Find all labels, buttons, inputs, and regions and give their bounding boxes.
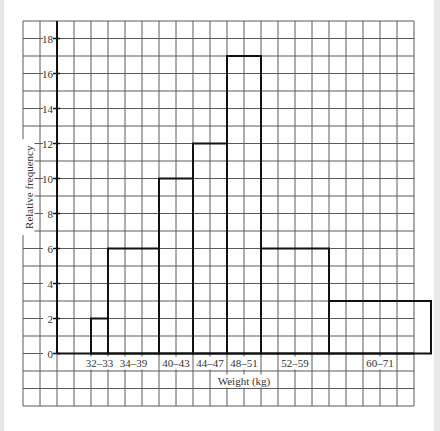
x-tick-label: 40–43	[162, 357, 190, 369]
x-tick-label: 60–71	[366, 357, 394, 369]
y-tick-label: 0	[48, 348, 54, 360]
x-tick-label: 34–39	[120, 357, 148, 369]
y-tick-label: 18	[42, 33, 54, 45]
y-tick-label: 14	[42, 103, 54, 115]
y-tick-label: 6	[48, 243, 54, 255]
x-tick-labels: 32–3334–3940–4344–4748–5152–5960–71	[84, 357, 396, 370]
axis-titles: Weight (kg) Relative frequency	[22, 139, 273, 387]
x-tick-label: 32–33	[86, 357, 114, 369]
y-tick-label: 12	[42, 138, 53, 150]
x-axis-title: Weight (kg)	[218, 375, 271, 388]
y-tick-label: 10	[42, 173, 54, 185]
y-tick-label: 2	[48, 313, 54, 325]
axes	[57, 21, 414, 354]
y-tick-label: 16	[42, 68, 54, 80]
histogram-chart: 024681012141618 32–3334–3940–4344–4748–5…	[0, 0, 440, 431]
graph-paper-grid	[23, 21, 414, 406]
x-tick-label: 48–51	[230, 357, 258, 369]
x-tick-label: 44–47	[196, 357, 224, 369]
y-tick-label: 8	[48, 208, 54, 220]
y-axis-title: Relative frequency	[23, 145, 35, 229]
x-tick-label: 52–59	[281, 357, 309, 369]
y-tick-label: 4	[48, 278, 54, 290]
